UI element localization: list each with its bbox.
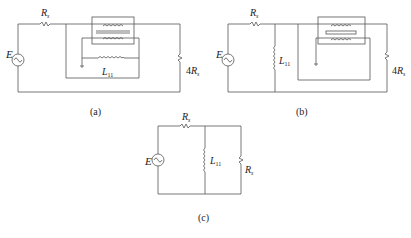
resistor-rs-load bbox=[239, 156, 243, 164]
load-label: 4Rs bbox=[392, 65, 406, 77]
rs-label: Rs bbox=[40, 7, 50, 19]
wire bbox=[228, 24, 387, 92]
resistor-4rs bbox=[178, 54, 182, 62]
source-label: E bbox=[215, 48, 223, 60]
transformer-primary bbox=[103, 25, 123, 27]
caption-b: (b) bbox=[296, 106, 308, 118]
sine-glyph bbox=[14, 58, 22, 62]
circuit-diagrams: E Rs 4Rs L11 (a) E Rs L11 4Rs (b) bbox=[0, 0, 411, 238]
load-label: 4Rs bbox=[186, 65, 200, 77]
inductor-l11-coil bbox=[274, 46, 276, 70]
sine-glyph bbox=[224, 58, 232, 62]
source-label: E bbox=[144, 155, 152, 167]
load-label: Rs bbox=[244, 164, 254, 176]
wire bbox=[316, 38, 370, 66]
resistor-rs bbox=[40, 22, 50, 26]
circuit-c: E Rs L11 Rs (c) bbox=[144, 111, 254, 224]
caption-a: (a) bbox=[90, 106, 101, 118]
transformer-box bbox=[92, 17, 134, 44]
wire bbox=[298, 24, 370, 80]
inductor-l11-coil bbox=[98, 57, 124, 59]
inductor-label: L11 bbox=[101, 66, 113, 78]
source-label: E bbox=[5, 48, 13, 60]
wire bbox=[158, 126, 241, 194]
inductor-label: L11 bbox=[209, 155, 221, 167]
rs-label: Rs bbox=[181, 111, 191, 123]
transformer-box bbox=[318, 17, 365, 44]
sine-glyph bbox=[154, 158, 162, 162]
circuit-b: E Rs L11 4Rs (b) bbox=[215, 7, 406, 118]
circuit-a: E Rs 4Rs L11 (a) bbox=[5, 7, 200, 118]
transformer-core bbox=[326, 31, 356, 34]
transformer-secondary bbox=[331, 39, 351, 41]
inductor-l11-coil bbox=[204, 148, 206, 172]
rs-label: Rs bbox=[249, 7, 259, 19]
resistor-4rs bbox=[385, 52, 389, 60]
caption-c: (c) bbox=[198, 212, 209, 224]
wire bbox=[82, 38, 139, 68]
resistor-rs bbox=[180, 124, 190, 128]
wire bbox=[18, 24, 180, 92]
inductor-label: L11 bbox=[278, 55, 290, 67]
resistor-rs bbox=[250, 22, 260, 26]
transformer-primary bbox=[331, 25, 351, 27]
